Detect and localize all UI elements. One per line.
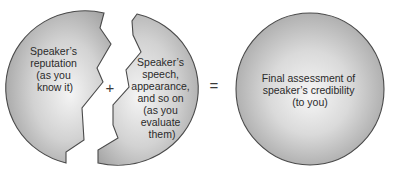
credibility-result-circle: Final assessment of speaker’s credibilit…: [236, 13, 384, 165]
equals-icon: =: [210, 77, 219, 94]
credibility-diagram: Speaker’s reputation (as you know it) + …: [0, 0, 395, 179]
plus-icon: +: [106, 79, 115, 96]
reputation-label: Speaker’s reputation (as you know it): [30, 45, 80, 93]
reputation-piece: Speaker’s reputation (as you know it): [6, 11, 111, 163]
